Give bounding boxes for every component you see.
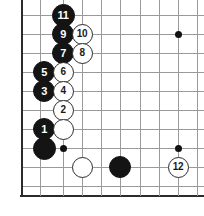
stone-black-a — [33, 137, 56, 160]
go-board-diagram: 119107856342112 — [0, 0, 204, 216]
stone-7: 7 — [52, 42, 74, 64]
stone-3-label: 3 — [41, 85, 47, 96]
stone-4: 4 — [53, 81, 74, 102]
stone-white-a — [53, 119, 74, 140]
stone-2-label: 2 — [60, 105, 65, 115]
stone-8-label: 8 — [79, 48, 84, 58]
stone-12-label: 12 — [173, 162, 183, 172]
stone-9-label: 9 — [60, 28, 66, 39]
stone-11-label: 11 — [58, 9, 69, 20]
stone-5-label: 5 — [41, 66, 47, 77]
stone-black-b — [109, 156, 131, 178]
stone-2: 2 — [53, 100, 74, 121]
stone-4-label: 4 — [60, 86, 65, 96]
stone-3: 3 — [33, 80, 55, 102]
stone-7-label: 7 — [60, 47, 66, 58]
stone-8: 8 — [72, 43, 93, 64]
stone-10-label: 10 — [77, 29, 87, 39]
stone-10: 10 — [72, 24, 93, 45]
stone-12: 12 — [168, 157, 189, 178]
stone-6-label: 6 — [60, 67, 65, 77]
stone-white-b — [72, 157, 93, 178]
stone-1-label: 1 — [41, 123, 47, 134]
board-stones: 119107856342112 — [0, 0, 204, 216]
stone-6: 6 — [53, 62, 74, 83]
